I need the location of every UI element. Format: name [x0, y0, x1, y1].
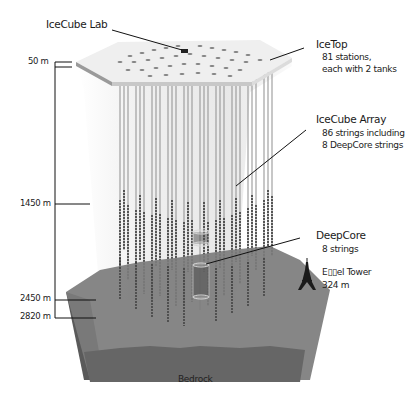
label-deepcore-title: DeepCore	[316, 229, 366, 241]
label-icecube-lab: IceCube Lab	[46, 18, 107, 30]
label-icetop-line2: each with 2 tanks	[322, 64, 397, 74]
deepcore-cylinders	[193, 230, 209, 299]
label-bedrock: Bedrock	[178, 374, 213, 384]
label-array-line1: 86 strings including	[322, 128, 405, 138]
depth-50m: 50 m	[28, 57, 49, 67]
icecube-diagram: IceCube Lab IceTop 81 stations, each wit…	[0, 0, 420, 404]
label-icetop-line1: 81 stations,	[322, 52, 371, 62]
label-array-line2: 8 DeepCore strings	[322, 140, 403, 150]
label-eiffel-height: 324 m	[322, 280, 349, 290]
label-eiffel-title: E▯▯el Tower	[322, 267, 371, 277]
depth-2820m: 2820 m	[20, 312, 51, 322]
depth-1450m: 1450 m	[20, 199, 51, 209]
label-deepcore-line1: 8 strings	[322, 244, 358, 254]
label-array-title: IceCube Array	[316, 113, 386, 125]
icetop-surface	[76, 40, 292, 82]
label-icetop-title: IceTop	[316, 38, 347, 50]
depth-2450m: 2450 m	[20, 294, 51, 304]
